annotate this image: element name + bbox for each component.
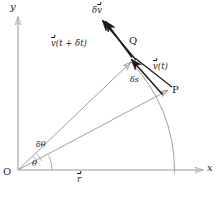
x-axis-label: x [207, 163, 213, 173]
v-t-vector-glyph: v [153, 62, 158, 71]
velocity-v-t-plus-dt-label: v(t + δt) [51, 39, 87, 48]
r-vector-glyph: r [77, 175, 81, 184]
position-vector-r-to-p [18, 91, 168, 171]
vector-diagram-figure: y x O P Q θ δθ r v(t) v(t + δt) δv δs [0, 0, 219, 197]
delta-theta-symbol: θ [41, 140, 46, 149]
point-p-label: P [172, 85, 179, 95]
position-vector-r-label: r [77, 175, 81, 184]
delta-v-vector-glyph: v [97, 6, 102, 15]
delta-theta-label: δθ [36, 141, 46, 149]
theta-label: θ [32, 160, 37, 168]
v-t-argument: (t) [158, 61, 168, 71]
y-axis-label: y [10, 2, 16, 12]
position-vector-r-to-q [18, 63, 131, 171]
delta-s-symbol: s [135, 75, 139, 84]
delta-s-label: δs [130, 76, 139, 84]
origin-label: O [3, 167, 11, 177]
v-t-plus-dt-vector-glyph: v [51, 39, 56, 48]
point-q-label: Q [129, 36, 137, 46]
v-t-plus-dt-argument: (t + δt) [56, 38, 87, 48]
theta-angle-arc [49, 155, 52, 170]
velocity-v-t-label: v(t) [153, 62, 168, 71]
delta-v-label: δv [92, 6, 102, 15]
